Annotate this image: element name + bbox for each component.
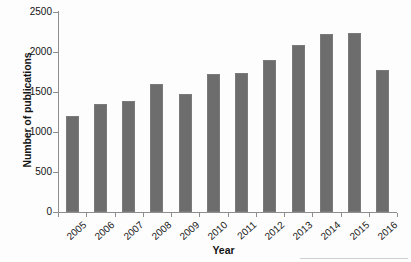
y-tick-label-wrap: 500 <box>12 167 52 177</box>
x-tick-label-2009: 2009 <box>172 219 202 247</box>
x-tick-label-2015: 2015 <box>341 219 371 247</box>
x-tick-label-2007: 2007 <box>115 219 145 247</box>
y-tick-label: 0 <box>18 207 52 217</box>
x-tick-label-2011: 2011 <box>228 219 258 247</box>
x-tick-2009 <box>199 213 200 217</box>
x-tick-2007 <box>143 213 144 217</box>
bar-2013 <box>292 45 305 212</box>
x-tick-2014 <box>341 213 342 217</box>
bar-2012 <box>263 60 276 212</box>
y-tick-label: 1000 <box>18 127 52 137</box>
x-tick-2006 <box>115 213 116 217</box>
y-tick-label-wrap: 2000 <box>12 47 52 57</box>
y-tick-label: 500 <box>18 167 52 177</box>
plot-area <box>58 12 397 212</box>
bar-2016 <box>376 70 389 212</box>
x-tick-label-2012: 2012 <box>257 219 287 247</box>
x-tick-label-2010: 2010 <box>200 219 230 247</box>
bar-2009 <box>179 94 192 212</box>
x-tick-2011 <box>256 213 257 217</box>
y-tick-label: 1500 <box>18 87 52 97</box>
x-tick-label-2008: 2008 <box>144 219 174 247</box>
bar-2007 <box>122 101 135 212</box>
bar-2010 <box>207 74 220 212</box>
x-tick-2005 <box>86 213 87 217</box>
x-axis-title: Year <box>0 244 411 256</box>
x-tick-2016 <box>397 213 398 217</box>
y-tick-label-wrap: 0 <box>12 207 52 217</box>
scan-artifact-line <box>300 258 408 259</box>
bar-2015 <box>348 33 361 212</box>
y-tick-label: 2000 <box>18 47 52 57</box>
bar-2008 <box>150 84 163 212</box>
x-tick-2015 <box>369 213 370 217</box>
x-tick-origin <box>58 213 59 217</box>
x-tick-2008 <box>171 213 172 217</box>
y-tick-label-wrap: 1500 <box>12 87 52 97</box>
y-tick-label: 2500 <box>18 7 52 17</box>
x-tick-label-2014: 2014 <box>313 219 343 247</box>
bar-2006 <box>94 104 107 212</box>
bar-2014 <box>320 34 333 212</box>
x-tick-label-2016: 2016 <box>370 219 400 247</box>
x-tick-label-2005: 2005 <box>59 219 89 247</box>
x-tick-2010 <box>228 213 229 217</box>
bar-chart-figure: Number of publications 05001000150020002… <box>0 0 411 262</box>
bar-2005 <box>66 116 79 212</box>
x-tick-label-2013: 2013 <box>285 219 315 247</box>
y-tick-label-wrap: 1000 <box>12 127 52 137</box>
x-tick-2012 <box>284 213 285 217</box>
x-tick-2013 <box>312 213 313 217</box>
x-tick-label-2006: 2006 <box>87 219 117 247</box>
bar-2011 <box>235 73 248 212</box>
y-tick-label-wrap: 2500 <box>12 7 52 17</box>
